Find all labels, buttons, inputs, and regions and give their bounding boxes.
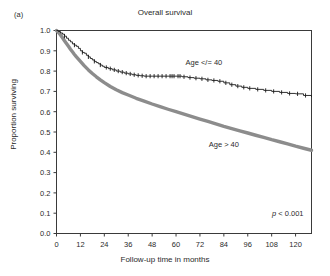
y-tick-label: 0.6 — [40, 108, 50, 117]
y-tick-label: 0.1 — [40, 209, 50, 218]
chart-title: Overall survival — [0, 8, 330, 17]
survival-plot: 0.00.10.20.30.40.50.60.70.80.91.0 012243… — [0, 0, 330, 276]
x-tick-label: 72 — [196, 240, 204, 249]
survival-figure: (a) Overall survival Proportion survivin… — [0, 0, 330, 276]
x-tick-label: 96 — [244, 240, 252, 249]
pvalue-label: p < 0.001 — [271, 209, 304, 218]
y-tick-label: 1.0 — [40, 26, 50, 35]
series-line-age-under-40 — [57, 31, 312, 98]
y-tick-label: 0.0 — [40, 229, 50, 238]
pvalue-value: < 0.001 — [276, 209, 303, 218]
x-tick-label: 108 — [265, 240, 278, 249]
x-tick-label: 60 — [172, 240, 180, 249]
x-tick-label: 24 — [100, 240, 108, 249]
x-tick-label: 12 — [76, 240, 84, 249]
y-tick-label: 0.4 — [40, 148, 50, 157]
x-axis-ticks: 01224364860728496108120 — [54, 234, 301, 249]
y-tick-label: 0.8 — [40, 67, 50, 76]
y-tick-label: 0.9 — [40, 47, 50, 56]
series-label-age-under-40: Age </= 40 — [186, 58, 223, 67]
x-tick-label: 84 — [220, 240, 228, 249]
y-tick-label: 0.7 — [40, 87, 50, 96]
y-tick-label: 0.5 — [40, 128, 50, 137]
series-label-age-over-40: Age > 40 — [209, 140, 239, 149]
y-tick-label: 0.2 — [40, 189, 50, 198]
y-axis-ticks: 0.00.10.20.30.40.50.60.70.80.91.0 — [40, 26, 56, 238]
x-tick-label: 36 — [124, 240, 132, 249]
y-axis-title: Proportion surviving — [9, 40, 18, 190]
x-tick-label: 0 — [54, 240, 58, 249]
x-axis-title: Follow-up time in months — [0, 255, 330, 264]
x-tick-label: 48 — [148, 240, 156, 249]
x-tick-label: 120 — [289, 240, 302, 249]
y-tick-label: 0.3 — [40, 168, 50, 177]
